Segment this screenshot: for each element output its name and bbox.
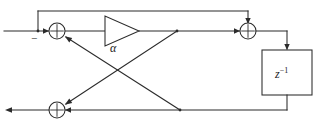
- delay-to-bottom-wire: [65, 95, 287, 113]
- diagonal-2-tap-dot: [179, 109, 182, 112]
- output-port: [5, 107, 49, 113]
- delay-exponent-label: −1: [280, 66, 289, 75]
- forward-signal-line: [65, 28, 240, 33]
- delay-input-arrowhead: [284, 44, 289, 50]
- right-summing-junction[interactable]: [240, 23, 256, 39]
- signal-flow-diagram: − α z−1: [0, 0, 317, 127]
- bottom-sum-input-arrowhead: [65, 107, 71, 112]
- output-arrowhead: [5, 107, 12, 113]
- diagonal-1-tap-dot: [176, 30, 179, 33]
- diagonal-feedforward-branch: [65, 30, 179, 105]
- top-path-tap-dot: [37, 30, 40, 33]
- negative-sign-label: −: [31, 33, 37, 44]
- gain-coefficient-label: α: [110, 42, 116, 54]
- bottom-summing-junction[interactable]: [49, 102, 65, 118]
- diagonal-2-arrowhead: [65, 36, 72, 42]
- input-arrowhead: [43, 28, 49, 33]
- input-port: [4, 28, 49, 33]
- diagonal-1-arrowhead: [65, 99, 72, 105]
- top-feedforward-path: [37, 11, 251, 32]
- delay-block-label: z−1: [275, 68, 288, 80]
- signal-flow-canvas: [0, 0, 317, 127]
- right-sum-to-delay-wire: [256, 31, 290, 50]
- diagonal-feedback-branch: [65, 36, 182, 111]
- left-summing-junction[interactable]: [49, 23, 65, 39]
- forward-line-arrowhead: [234, 28, 240, 33]
